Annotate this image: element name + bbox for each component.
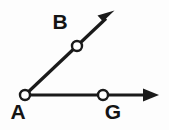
point-marker-b [72, 41, 82, 51]
ray-ag-group [25, 89, 159, 102]
angle-diagram-svg: A B G [0, 0, 169, 130]
point-label-b: B [52, 10, 67, 33]
point-label-g: G [105, 100, 121, 123]
ray-ag-arrowhead-icon [143, 89, 159, 102]
point-marker-g [98, 90, 108, 100]
point-marker-a [20, 90, 30, 100]
ray-ab-group [25, 11, 115, 96]
point-label-a: A [10, 100, 25, 123]
angle-diagram-canvas: A B G [0, 0, 169, 130]
